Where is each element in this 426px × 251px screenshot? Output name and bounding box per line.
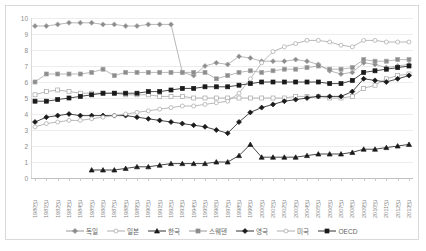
data-point-marker (44, 99, 48, 103)
data-point-marker (90, 70, 94, 74)
data-point-marker (350, 45, 354, 49)
data-point-marker (214, 77, 218, 81)
y-axis-tick-label: 3 (2, 127, 28, 134)
data-point-marker (407, 64, 411, 68)
data-point-marker (226, 74, 230, 78)
y-axis-tick-label: 8 (2, 47, 28, 54)
x-axis-tick (296, 178, 297, 181)
data-point-marker (373, 78, 378, 83)
data-point-marker (55, 22, 60, 27)
data-point-marker (78, 113, 83, 118)
data-point-marker (203, 70, 207, 74)
legend-marker-circle-open-icon (107, 227, 125, 235)
data-point-marker (214, 60, 219, 65)
data-point-marker (67, 72, 71, 76)
legend-label: 스웨덴 (208, 226, 227, 236)
y-axis-tick-label: 6 (2, 79, 28, 86)
data-point-marker (373, 83, 377, 87)
legend-label: 한국 (167, 226, 180, 236)
legend-marker-circle-open2-icon (277, 227, 295, 235)
data-point-marker (271, 59, 276, 64)
data-point-marker (282, 80, 286, 84)
x-axis-tick-label: 2006년 (327, 182, 333, 218)
data-point-marker (157, 118, 162, 123)
x-axis-tick (273, 178, 274, 181)
data-point-marker (73, 229, 78, 234)
data-point-marker (192, 86, 196, 90)
x-axis-tick-label: 2004년 (304, 182, 310, 218)
x-axis-tick-label: 1982년 (55, 182, 61, 218)
data-point-marker (396, 66, 400, 70)
legend-marker-square-filled-icon (318, 227, 336, 235)
data-point-marker (248, 77, 252, 81)
data-point-marker (214, 101, 218, 105)
data-point-marker (191, 123, 196, 128)
x-axis-tick-label: 2012년 (395, 182, 401, 218)
data-point-marker (260, 61, 264, 65)
data-point-marker (203, 96, 207, 100)
x-axis-tick (182, 178, 183, 181)
legend-item-일본[interactable]: 일본 (107, 226, 139, 236)
x-axis-tick-label: 2005년 (315, 182, 321, 218)
x-axis-tick-label: 1988년 (123, 182, 129, 218)
data-point-marker (293, 57, 298, 62)
data-point-marker (78, 20, 83, 25)
data-point-marker (214, 128, 219, 133)
data-point-marker (248, 69, 252, 73)
x-axis-tick (262, 178, 263, 181)
x-axis-tick-label: 1992년 (168, 182, 174, 218)
data-point-marker (180, 70, 184, 74)
x-axis-tick-label: 1987년 (111, 182, 117, 218)
data-point-marker (226, 99, 230, 103)
data-point-marker (146, 22, 151, 27)
data-point-marker (316, 38, 320, 42)
data-point-marker (305, 38, 309, 42)
data-point-marker (158, 107, 162, 111)
data-point-marker (196, 229, 200, 233)
x-axis-tick (250, 178, 251, 181)
x-axis-tick (114, 178, 115, 181)
data-point-marker (135, 70, 139, 74)
legend-item-OECD[interactable]: OECD (318, 227, 357, 235)
data-point-marker (33, 24, 38, 29)
x-axis-tick-label: 1983년 (66, 182, 72, 218)
x-axis-tick-label: 2002년 (281, 182, 287, 218)
data-point-marker (248, 142, 253, 146)
data-point-marker (214, 96, 218, 100)
x-axis-tick (80, 178, 81, 181)
x-axis-tick (171, 178, 172, 181)
legend-item-스웨덴[interactable]: 스웨덴 (189, 226, 227, 236)
series-한국 (89, 142, 411, 172)
x-axis-tick (375, 178, 376, 181)
data-point-marker (67, 20, 72, 25)
legend-label: 미국 (296, 226, 309, 236)
data-point-marker (294, 42, 298, 46)
data-point-marker (112, 22, 117, 27)
legend-item-영국[interactable]: 영국 (236, 226, 268, 236)
data-point-marker (169, 94, 173, 98)
legend-item-독일[interactable]: 독일 (66, 226, 98, 236)
data-point-marker (67, 90, 71, 94)
data-point-marker (169, 88, 173, 92)
data-point-marker (124, 70, 128, 74)
data-point-marker (192, 70, 196, 74)
data-point-marker (362, 38, 366, 42)
data-point-marker (350, 78, 354, 82)
data-point-marker (135, 110, 139, 114)
data-point-marker (305, 66, 309, 70)
data-point-marker (44, 90, 48, 94)
x-axis-tick (46, 178, 47, 181)
data-point-marker (407, 142, 412, 146)
x-axis-tick (352, 178, 353, 181)
data-point-marker (396, 58, 400, 62)
x-axis-tick (205, 178, 206, 181)
data-point-marker (33, 120, 38, 125)
data-point-marker (328, 82, 332, 86)
series-line (35, 76, 409, 134)
legend-item-미국[interactable]: 미국 (277, 226, 309, 236)
legend-marker-diamond-filled-icon (236, 227, 254, 235)
legend-item-한국[interactable]: 한국 (148, 226, 180, 236)
data-point-marker (203, 124, 208, 129)
x-axis-tick (284, 178, 285, 181)
data-point-marker (271, 80, 275, 84)
